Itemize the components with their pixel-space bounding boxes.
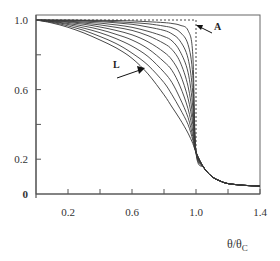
- y-tick-label: 0.2: [14, 153, 28, 165]
- line-chart: 0.20.61.01.4 00.20.61.0 A L θ/θC: [0, 0, 280, 261]
- series-curve-1-line: [36, 20, 260, 186]
- annotation-l-arrowhead-icon: [137, 66, 145, 74]
- series-curve-3-line: [36, 20, 260, 186]
- x-tick-label: 1.0: [189, 206, 203, 218]
- x-tick-label: 1.4: [253, 206, 267, 218]
- x-tick-label: 0.6: [125, 206, 139, 218]
- y-tick-label: 0: [23, 188, 29, 200]
- y-tick-label: 1.0: [14, 14, 28, 26]
- x-axis-ticks: 0.20.61.01.4: [61, 189, 267, 218]
- y-tick-label: 0.6: [14, 84, 28, 96]
- y-axis-ticks: 00.20.61.0: [14, 14, 41, 200]
- series-curve-8-line: [36, 20, 260, 186]
- series-curve-6-line: [36, 20, 260, 186]
- series-l-line: [36, 20, 260, 186]
- annotation-l-arrow-shaft: [117, 70, 140, 78]
- series-curve-2-line: [36, 20, 260, 186]
- x-tick-label: 0.2: [61, 206, 75, 218]
- series-curve-5-line: [36, 20, 260, 186]
- series-a-dashed-line: [36, 20, 196, 152]
- plot-frame: [36, 15, 260, 198]
- series-curve-7-line: [36, 20, 260, 186]
- x-axis-title: θ/θC: [227, 237, 248, 253]
- curve-group: [36, 20, 260, 186]
- annotation-l-label: L: [113, 59, 120, 70]
- annotation-a-label: A: [214, 21, 222, 32]
- series-curve-4-line: [36, 20, 260, 186]
- annotation-a-arrowhead-icon: [196, 25, 203, 30]
- series-curve-9-line: [36, 20, 260, 186]
